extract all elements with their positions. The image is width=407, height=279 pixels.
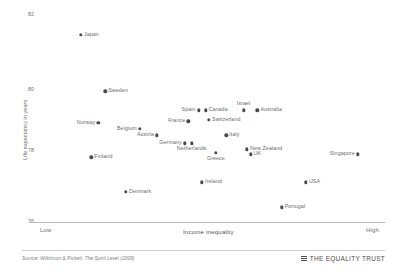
footer-divider bbox=[22, 250, 385, 251]
y-tick-label: 76 bbox=[28, 218, 34, 224]
data-point-label: Finland bbox=[94, 155, 112, 160]
data-point-label: Denmark bbox=[129, 189, 151, 194]
data-point bbox=[79, 33, 82, 36]
data-point-label: Portugal bbox=[285, 205, 306, 210]
data-point-label: UK bbox=[254, 151, 262, 156]
data-point bbox=[204, 109, 207, 112]
data-point-label: Austria bbox=[137, 133, 154, 138]
data-point-label: Spain bbox=[182, 108, 196, 113]
x-axis-line bbox=[30, 222, 385, 223]
data-point-label: Italy bbox=[229, 133, 239, 138]
data-point-label: Ireland bbox=[205, 180, 222, 185]
data-point bbox=[187, 120, 190, 123]
data-point bbox=[97, 121, 100, 124]
data-point-label: Singapore bbox=[330, 151, 355, 156]
data-point-label: France bbox=[168, 119, 185, 124]
data-point-label: Norway bbox=[77, 120, 96, 125]
data-point bbox=[200, 181, 203, 184]
data-point bbox=[245, 148, 248, 151]
plot-area: 82 80 78 76 Life expectancy in years Low… bbox=[0, 0, 407, 279]
scatter-chart: 82 80 78 76 Life expectancy in years Low… bbox=[0, 0, 407, 279]
data-point bbox=[124, 190, 127, 193]
data-point bbox=[138, 127, 141, 130]
data-point-label: Japan bbox=[84, 32, 99, 37]
data-point-label: Sweden bbox=[108, 89, 128, 94]
data-point bbox=[214, 151, 217, 154]
data-point-label: Canada bbox=[209, 108, 228, 113]
data-point-label: Netherlands bbox=[177, 147, 207, 152]
data-point-label: Switzerland bbox=[212, 117, 240, 122]
data-point bbox=[225, 134, 228, 137]
data-point-label: Australia bbox=[260, 108, 282, 113]
data-point bbox=[155, 134, 158, 137]
x-axis-low-label: Low bbox=[40, 227, 51, 233]
x-axis-title: Income inequality bbox=[183, 228, 234, 235]
data-point bbox=[207, 118, 210, 121]
y-tick-label: 82 bbox=[28, 11, 34, 17]
data-point-label: Israel bbox=[237, 102, 251, 107]
data-point bbox=[304, 181, 307, 184]
bars-icon bbox=[301, 256, 307, 262]
data-point bbox=[183, 141, 186, 144]
brand-name: THE EQUALITY TRUST bbox=[310, 255, 385, 262]
source-citation: Source: Wilkinson & Pickett, The Spirit … bbox=[22, 256, 135, 261]
data-point bbox=[90, 156, 93, 159]
y-tick-label: 80 bbox=[28, 86, 34, 92]
data-point bbox=[280, 206, 283, 209]
data-point-label: Greece bbox=[207, 156, 225, 161]
y-axis-title: Life expectancy in years bbox=[22, 100, 28, 160]
y-tick-label: 78 bbox=[28, 147, 34, 153]
data-point-label: Belgium bbox=[117, 126, 137, 131]
equality-trust-logo: THE EQUALITY TRUST bbox=[301, 255, 385, 262]
data-point bbox=[256, 109, 259, 112]
data-point bbox=[242, 109, 245, 112]
data-point bbox=[103, 90, 106, 93]
data-point bbox=[249, 152, 252, 155]
x-axis-high-label: High bbox=[366, 227, 379, 233]
data-point bbox=[197, 109, 200, 112]
data-point-label: USA bbox=[309, 180, 320, 185]
data-point bbox=[190, 141, 193, 144]
data-point bbox=[356, 152, 359, 155]
